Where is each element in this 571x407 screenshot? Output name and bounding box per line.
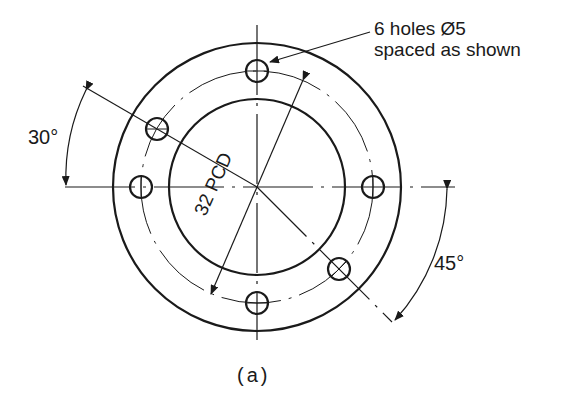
figure-caption: (a): [237, 364, 270, 387]
angle-30-label: 30°: [28, 126, 58, 149]
angle-45-label: 45°: [434, 252, 464, 275]
drawing-canvas: 6 holes Ø5 spaced as shown 30° 45° 32 PC…: [0, 0, 571, 407]
callout-line1: 6 holes Ø5: [374, 18, 521, 39]
flange-drawing: [0, 0, 571, 407]
callout-text: 6 holes Ø5 spaced as shown: [374, 18, 521, 60]
callout-line2: spaced as shown: [374, 39, 521, 60]
